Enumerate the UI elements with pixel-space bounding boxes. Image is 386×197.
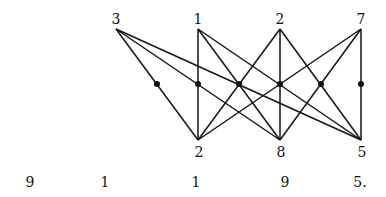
row-number: 9 — [26, 174, 35, 190]
top-node-label: 3 — [112, 11, 121, 27]
midpoint-dot — [195, 81, 201, 87]
midpoint-dot — [358, 81, 364, 87]
bipartite-graph-diagram: 3 1 2 7 2 8 5 9 1 1 9 5. — [0, 0, 386, 197]
row-number: 9 — [281, 174, 290, 190]
row-number: 1 — [192, 174, 201, 190]
bottom-node-label: 8 — [277, 144, 286, 160]
midpoint-dot — [236, 81, 242, 87]
bottom-node-label: 2 — [195, 144, 204, 160]
graph-middle-dots — [154, 81, 364, 87]
row-number: 1 — [101, 174, 110, 190]
top-node-label: 7 — [357, 11, 366, 27]
bottom-node-label: 5 — [358, 144, 367, 160]
row-number: 5. — [353, 174, 366, 190]
top-node-label: 2 — [276, 11, 285, 27]
midpoint-dot — [277, 81, 283, 87]
top-node-label: 1 — [194, 11, 203, 27]
bottom-node-labels: 2 8 5 — [195, 144, 367, 160]
bottom-number-row: 9 1 1 9 5. — [26, 174, 367, 190]
midpoint-dot — [318, 81, 324, 87]
top-node-labels: 3 1 2 7 — [112, 11, 366, 27]
midpoint-dot — [154, 81, 160, 87]
